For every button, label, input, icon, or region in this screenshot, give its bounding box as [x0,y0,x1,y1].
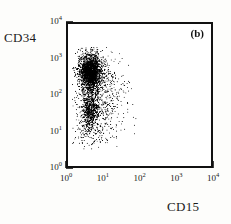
x-tick-label-4: 104 [198,174,228,183]
y-tick-label-4: 104 [30,17,62,26]
y-tick-label-1: 101 [30,127,62,136]
x-tick-label-3: 103 [161,174,191,183]
plot-area: (b) [66,22,213,168]
y-axis-tick-labels: 100101102103104 [30,0,62,224]
scatter-plot-figure: CD34 CD15 100101102103104 10010110210310… [0,0,231,224]
y-tick-label-3: 103 [30,54,62,63]
x-tick-label-1: 101 [88,174,118,183]
y-tick-label-2: 102 [30,90,62,99]
x-tick-label-0: 100 [51,174,81,183]
scatter-points-layer [68,24,211,166]
panel-label: (b) [191,28,204,39]
x-axis-tick-labels: 100101102103104 [0,174,231,190]
x-tick-label-2: 102 [125,174,155,183]
y-tick-label-0: 100 [30,163,62,172]
x-axis-title: CD15 [167,199,199,215]
